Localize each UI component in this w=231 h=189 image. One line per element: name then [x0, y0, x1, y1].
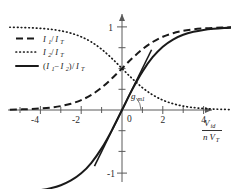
x-tick-label-m4: -4	[31, 115, 39, 125]
legend-item-i2[interactable]: I 2 / I T	[16, 47, 64, 58]
x-axis-label-numerator-subscript: id	[211, 122, 217, 129]
chart-container: g m1 -4 -2 0 2 4 1 -1 V id n V T I	[0, 0, 231, 189]
x-tick-label-2: 2	[160, 115, 165, 125]
y-axis-arrow	[119, 14, 125, 21]
legend-label-diff-minus: −	[54, 61, 59, 71]
gm-label-subscript: m1	[137, 95, 145, 102]
x-tick-label-0: 0	[127, 114, 132, 124]
legend-label-i1-slash: /	[51, 34, 54, 44]
legend-label-i1-denominator-subscript: T	[60, 38, 64, 45]
axes-group	[8, 14, 212, 182]
legend: I 1 / I T I 2 / I T ( I 1 −	[16, 34, 85, 73]
legend-label-diff-denominator-subscript: T	[81, 65, 85, 72]
legend-label-i2-denominator-subscript: T	[60, 51, 64, 58]
legend-label-diff-i1: I	[45, 61, 50, 71]
legend-item-diff[interactable]: ( I 1 − I 2 ) / I T	[16, 61, 85, 72]
legend-label-diff-slash: /	[72, 61, 75, 71]
legend-label-i1-numerator: I	[42, 34, 47, 44]
y-tick-label-m1: -1	[107, 169, 115, 179]
x-axis-label-denominator-n: n	[203, 132, 208, 142]
gm-label: g	[131, 91, 136, 101]
legend-item-i1[interactable]: I 1 / I T	[16, 34, 64, 45]
x-axis-label-denominator-subscript: T	[216, 136, 220, 143]
y-tick-label-1: 1	[108, 23, 113, 33]
legend-label-i1-denominator: I	[54, 34, 59, 44]
legend-label-i2-denominator: I	[54, 47, 59, 57]
legend-label-i2-numerator: I	[42, 47, 47, 57]
legend-label-diff-denominator: I	[75, 61, 80, 71]
legend-label-diff-i2: I	[60, 61, 65, 71]
transfer-characteristic-chart: g m1 -4 -2 0 2 4 1 -1 V id n V T I	[0, 0, 231, 189]
legend-label-i2-slash: /	[51, 47, 54, 57]
x-axis-label: V id n V T	[202, 118, 222, 143]
x-tick-label-m2: -2	[72, 115, 80, 125]
